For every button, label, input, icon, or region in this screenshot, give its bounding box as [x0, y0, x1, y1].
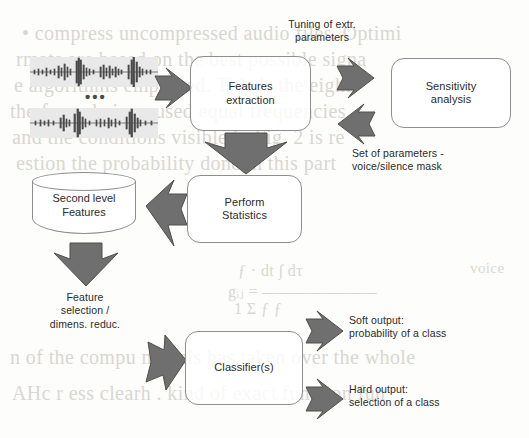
node-sensitivity-analysis-line1: Sensitivity: [426, 80, 477, 93]
label-soft-output: Soft output: probability of a class: [349, 314, 525, 341]
arrow-selection-to-classifier: [140, 332, 188, 394]
audio-waveform-2: [30, 108, 158, 138]
node-perform-statistics[interactable]: Perform Statistics: [187, 175, 302, 243]
arrow-statistics-to-datastore: [144, 178, 188, 248]
node-features-extraction-line2: extraction: [226, 94, 275, 107]
arrow-features-to-sensitivity: [336, 55, 376, 101]
cylinder-top: [32, 172, 136, 191]
node-perform-statistics-line1: Perform: [222, 196, 267, 209]
bleed-text-line: voice: [470, 260, 504, 277]
label-feature-selection: Feature selection / dimens. reduc.: [20, 291, 150, 331]
waveform-ellipsis: •••: [85, 88, 107, 105]
arrow-waveforms-to-features: [154, 65, 194, 111]
node-sensitivity-analysis-line2: analysis: [426, 93, 477, 106]
audio-waveform-1: [30, 57, 158, 87]
node-perform-statistics-line2: Statistics: [222, 209, 267, 222]
datastore-second-level-features[interactable]: Second level Features: [32, 172, 136, 234]
label-hard-output: Hard output: selection of a class: [349, 383, 525, 410]
label-set-of-parameters: Set of parameters - voice/silence mask: [352, 147, 522, 174]
datastore-label-line2: Features: [62, 206, 105, 218]
node-sensitivity-analysis[interactable]: Sensitivity analysis: [391, 58, 511, 128]
arrow-features-to-statistics: [203, 132, 289, 176]
datastore-label-line1: Second level: [53, 192, 116, 204]
diagram-canvas: • compress uncompressed audio files. Opt…: [0, 0, 529, 438]
node-features-extraction[interactable]: Features extraction: [190, 56, 311, 131]
node-classifier[interactable]: Classifier(s): [185, 331, 303, 405]
label-tuning-of-extraction-parameters: Tuning of extr. parameters: [258, 18, 386, 45]
arrow-sensitivity-to-features: [336, 101, 376, 147]
node-features-extraction-line1: Features: [226, 80, 275, 93]
bleed-text-line: ƒ · dt ∫ dτ: [238, 262, 303, 280]
node-classifier-label: Classifier(s): [214, 361, 273, 374]
arrow-classifier-to-hard-output: [305, 377, 345, 421]
bleed-text-line: 1 Σ ƒ ƒ: [234, 300, 282, 318]
arrow-datastore-to-selection: [52, 242, 120, 288]
bleed-text-line: gᵢⱼ = ———————: [228, 282, 377, 301]
arrow-classifier-to-soft-output: [305, 309, 345, 353]
datastore-label: Second level Features: [32, 192, 136, 220]
